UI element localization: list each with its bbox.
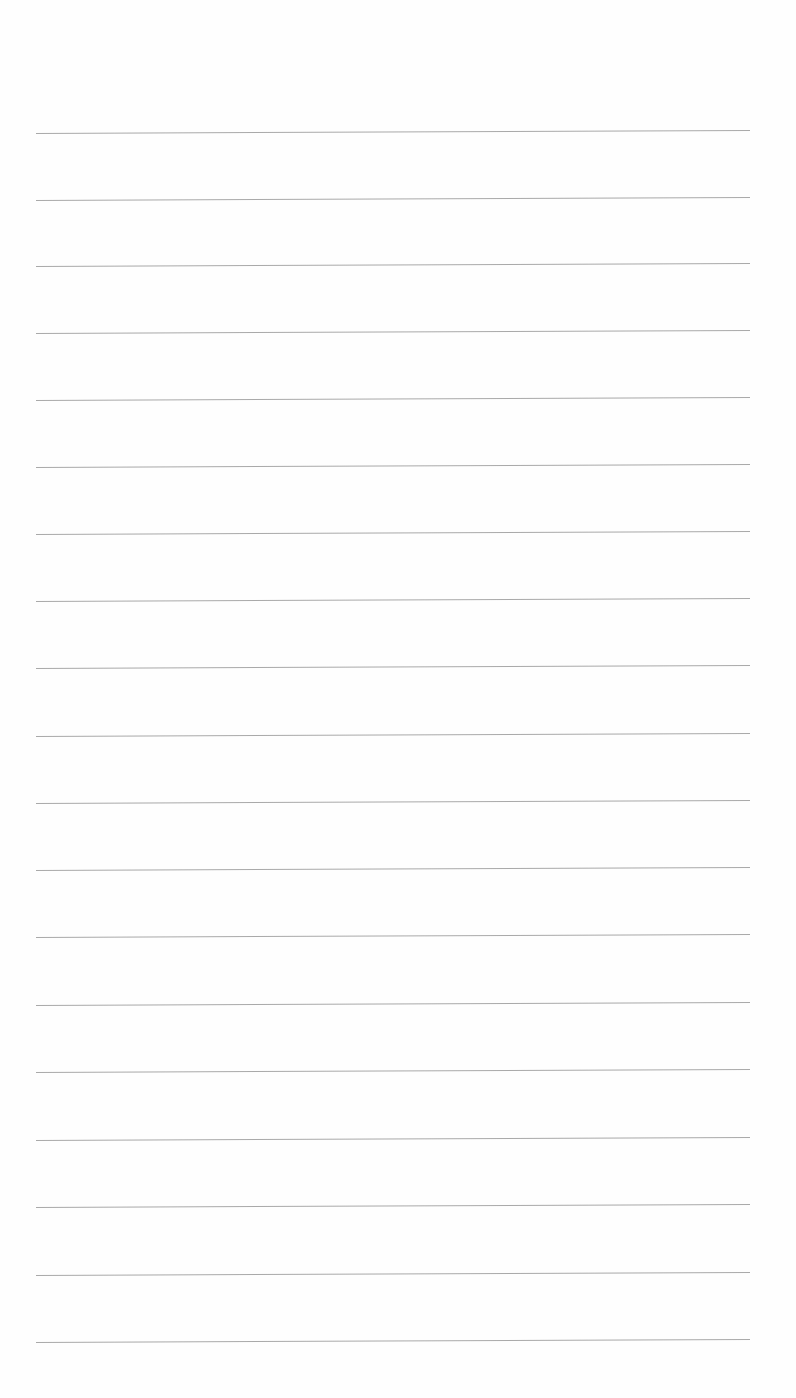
ruled-line [36,934,750,939]
ruled-line [36,130,750,135]
ruled-line [36,800,750,805]
ruled-line [36,665,750,670]
ruled-line [36,1069,750,1074]
ruled-line [36,263,750,268]
ruled-line [36,1272,750,1277]
ruled-line [36,733,750,738]
ruled-line [36,464,750,469]
lined-paper-page [0,0,796,1398]
ruled-line [36,1339,750,1344]
ruled-line [36,1137,750,1142]
ruled-line [36,598,750,603]
ruled-line [36,531,750,536]
ruled-line [36,397,750,402]
ruled-line [36,330,750,335]
ruled-line [36,1204,750,1209]
ruled-line [36,197,750,202]
ruled-line [36,1002,750,1007]
ruled-line [36,867,750,872]
